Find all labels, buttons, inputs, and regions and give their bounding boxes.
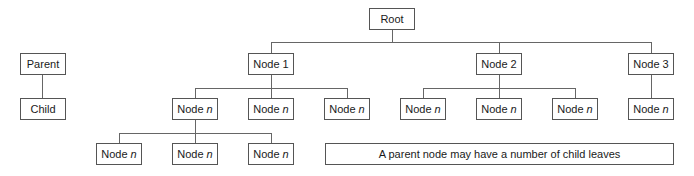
root-label: Root (380, 13, 403, 25)
level2-node: Noden (476, 98, 522, 120)
l2b-drop (271, 88, 272, 98)
node-1: Node 1 (248, 53, 294, 75)
node-prefix: Node (405, 103, 431, 115)
node2-drop (499, 42, 500, 53)
node-3: Node 3 (628, 53, 674, 75)
node-2-label: Node 2 (481, 58, 516, 70)
node-var: n (663, 103, 669, 115)
l3a-drop (119, 133, 120, 143)
l2a-drop (195, 88, 196, 98)
caption-box: A parent node may have a number of child… (325, 143, 674, 165)
level2-node: Noden (248, 98, 294, 120)
tree-diagram: Parent Child Root Node 1 Node 2 Node 3 N… (0, 0, 694, 176)
level3-node: Noden (172, 143, 218, 165)
node-var: n (511, 103, 517, 115)
node-prefix: Node (253, 103, 279, 115)
node-prefix: Node (329, 103, 355, 115)
l2e-drop (499, 88, 500, 98)
l3c-drop (271, 133, 272, 143)
caption-text: A parent node may have a number of child… (379, 148, 621, 160)
level2-node: Noden (628, 98, 674, 120)
l2a-connector (195, 120, 196, 133)
legend-child-label: Child (30, 103, 55, 115)
node-var: n (131, 148, 137, 160)
legend-connector (42, 75, 43, 98)
level2-node: Noden (400, 98, 446, 120)
legend-child-box: Child (20, 98, 66, 120)
l2c-drop (347, 88, 348, 98)
node3-drop (651, 42, 652, 53)
node2-connector (499, 75, 500, 88)
node-prefix: Node (101, 148, 127, 160)
l2d-drop (423, 88, 424, 98)
node-var: n (207, 148, 213, 160)
level2-node: Noden (172, 98, 218, 120)
node-prefix: Node (481, 103, 507, 115)
node-var: n (283, 148, 289, 160)
legend-parent-box: Parent (20, 53, 66, 75)
node-3-label: Node 3 (633, 58, 668, 70)
node-var: n (435, 103, 441, 115)
legend-parent-label: Parent (27, 58, 59, 70)
level2-node: Noden (552, 98, 598, 120)
node-var: n (207, 103, 213, 115)
node-var: n (283, 103, 289, 115)
l2f-drop (575, 88, 576, 98)
level3-node: Noden (96, 143, 142, 165)
node-prefix: Node (557, 103, 583, 115)
node3-connector (651, 75, 652, 98)
level2-node: Noden (324, 98, 370, 120)
node-var: n (587, 103, 593, 115)
level1-bus (271, 42, 651, 43)
node-var: n (359, 103, 365, 115)
node-prefix: Node (177, 148, 203, 160)
node1-connector (271, 75, 272, 88)
node-prefix: Node (177, 103, 203, 115)
node-1-label: Node 1 (253, 58, 288, 70)
node1-drop (271, 42, 272, 53)
root-connector (392, 30, 393, 42)
node-prefix: Node (253, 148, 279, 160)
node-prefix: Node (633, 103, 659, 115)
level3-node: Noden (248, 143, 294, 165)
root-node: Root (369, 8, 415, 30)
node-2: Node 2 (476, 53, 522, 75)
l3b-drop (195, 133, 196, 143)
